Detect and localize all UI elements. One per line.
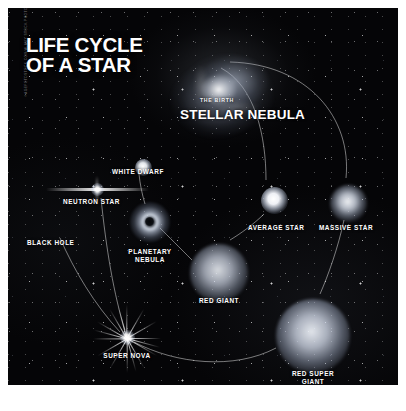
label-red-super-giant-line-1: RED SUPER bbox=[292, 370, 334, 377]
massive-star-body bbox=[330, 185, 367, 222]
label-black-hole: BLACK HOLE bbox=[27, 239, 74, 247]
supernova-ray bbox=[127, 338, 160, 348]
label-stellar-nebula: STELLAR NEBULA bbox=[180, 111, 305, 119]
supernova-ray bbox=[126, 308, 144, 338]
arc-planetary-nebula-to-white-dwarf bbox=[139, 174, 145, 204]
supernova-ray bbox=[93, 338, 127, 339]
space-background: LIFE CYCLE OF A STAR THE BIRTH STELLAR N… bbox=[8, 8, 398, 385]
label-white-dwarf: WHITE DWARF bbox=[112, 168, 164, 176]
supernova-body bbox=[120, 330, 135, 345]
supernova-ray bbox=[127, 338, 161, 339]
label-neutron-star: NEUTRON STAR bbox=[63, 198, 120, 206]
red-giant-body bbox=[190, 244, 248, 302]
red-super-giant-body bbox=[276, 299, 350, 373]
neutron-star-body bbox=[91, 183, 104, 196]
label-red-giant: RED GIANT bbox=[189, 297, 249, 305]
neutron-star-flare-horizontal bbox=[46, 188, 149, 191]
title-line-2: OF A STAR bbox=[26, 55, 143, 75]
label-red-super-giant: RED SUPER GIANT bbox=[280, 370, 346, 385]
label-super-nova: SUPER NOVA bbox=[96, 352, 158, 360]
label-massive-star: MASSIVE STAR bbox=[319, 224, 373, 232]
average-star-body bbox=[261, 187, 288, 214]
page-title: LIFE CYCLE OF A STAR bbox=[26, 35, 143, 75]
stellar-nebula-cloud bbox=[158, 40, 290, 148]
planetary-nebula-ring bbox=[130, 202, 170, 242]
label-red-super-giant-line-2: GIANT bbox=[302, 378, 325, 385]
supernova-ray bbox=[109, 308, 127, 338]
poster-frame: LIFE CYCLE OF A STAR THE BIRTH STELLAR N… bbox=[0, 0, 406, 411]
supernova-ray bbox=[94, 329, 127, 339]
label-planetary-nebula-line-2: NEBULA bbox=[135, 256, 165, 263]
label-average-star: AVERAGE STAR bbox=[248, 224, 304, 232]
arc-super-nova-to-black-hole bbox=[60, 238, 120, 332]
supernova-ray bbox=[97, 321, 127, 339]
supernova-ray bbox=[127, 321, 157, 339]
label-planetary-nebula: PLANETARY NEBULA bbox=[121, 248, 179, 264]
credit-watermark: ©AGEFOTOSTOCK.COM/ALAMY STOCK PHOTO bbox=[24, 8, 28, 102]
label-the-birth: THE BIRTH bbox=[200, 96, 234, 104]
planetary-nebula-core bbox=[145, 217, 154, 226]
label-planetary-nebula-line-1: PLANETARY bbox=[128, 248, 171, 255]
supernova-ray bbox=[126, 304, 127, 338]
supernova-ray bbox=[118, 305, 128, 338]
